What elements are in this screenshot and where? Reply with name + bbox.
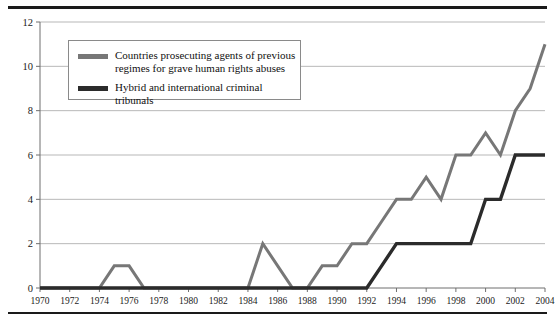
legend-label-countries-prosecuting: Countries prosecuting agents of previous… xyxy=(115,49,295,74)
svg-text:1976: 1976 xyxy=(120,296,139,306)
svg-text:1986: 1986 xyxy=(268,296,287,306)
svg-text:6: 6 xyxy=(28,150,33,161)
svg-text:1974: 1974 xyxy=(90,296,109,306)
svg-text:10: 10 xyxy=(23,61,34,72)
svg-text:1994: 1994 xyxy=(387,296,406,306)
svg-text:1992: 1992 xyxy=(357,296,376,306)
svg-text:2002: 2002 xyxy=(506,296,525,306)
svg-text:2: 2 xyxy=(28,238,33,249)
svg-text:4: 4 xyxy=(28,194,34,205)
svg-text:1980: 1980 xyxy=(179,296,198,306)
svg-text:1978: 1978 xyxy=(149,296,168,306)
svg-text:1984: 1984 xyxy=(238,296,257,306)
svg-text:1972: 1972 xyxy=(60,296,79,306)
svg-text:1996: 1996 xyxy=(417,296,436,306)
y-tick-marks xyxy=(36,22,40,288)
svg-text:1998: 1998 xyxy=(446,296,465,306)
legend-swatch-black xyxy=(78,86,108,91)
chart-figure: 024681012 197019721974197619781980198219… xyxy=(0,0,555,326)
y-tick-labels: 024681012 xyxy=(23,17,34,294)
legend-label-hybrid-tribunals: Hybrid and international criminal tribun… xyxy=(115,81,300,106)
svg-text:1970: 1970 xyxy=(31,296,50,306)
svg-text:12: 12 xyxy=(23,17,34,28)
legend-swatch-grey xyxy=(78,54,108,59)
svg-text:2000: 2000 xyxy=(476,296,495,306)
legend-item-countries-prosecuting: Countries prosecuting agents of previous… xyxy=(69,41,300,74)
x-tick-labels: 1970197219741976197819801982198419861988… xyxy=(31,296,555,306)
svg-text:2004: 2004 xyxy=(536,296,555,306)
svg-text:8: 8 xyxy=(28,105,33,116)
svg-text:0: 0 xyxy=(28,283,33,294)
svg-text:1982: 1982 xyxy=(209,296,228,306)
legend-item-hybrid-tribunals: Hybrid and international criminal tribun… xyxy=(69,74,300,106)
chart-legend: Countries prosecuting agents of previous… xyxy=(68,40,301,100)
svg-text:1990: 1990 xyxy=(328,296,347,306)
svg-text:1988: 1988 xyxy=(298,296,317,306)
